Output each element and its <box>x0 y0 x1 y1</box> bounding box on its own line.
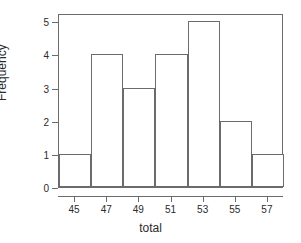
x-axis-tick <box>106 196 107 202</box>
bar-series <box>59 15 282 187</box>
y-axis-tick-label: 3 <box>43 83 49 94</box>
x-axis-tick-label: 45 <box>69 204 80 215</box>
x-axis-tick-label: 47 <box>101 204 112 215</box>
histogram-figure: Frequency 012345 total 45474951535557 <box>0 0 301 243</box>
x-axis-tick <box>203 196 204 202</box>
x-axis-tick <box>267 196 268 202</box>
x-axis-tick-label: 55 <box>229 204 240 215</box>
x-axis-title: total <box>0 221 301 235</box>
y-axis-tick-label: 4 <box>43 50 49 61</box>
histogram-bar <box>252 154 284 187</box>
histogram-bar <box>220 121 252 187</box>
histogram-bar <box>91 54 123 187</box>
y-axis-title: Frequency <box>0 44 9 101</box>
x-axis-tick-label: 57 <box>261 204 272 215</box>
x-axis-tick-label: 49 <box>133 204 144 215</box>
plot-area <box>58 14 283 188</box>
y-axis-tick-label: 0 <box>43 183 49 194</box>
x-axis-tick <box>74 196 75 202</box>
x-axis-tick <box>235 196 236 202</box>
histogram-bar <box>155 54 187 187</box>
x-axis-tick <box>138 196 139 202</box>
y-axis-tick-label: 2 <box>43 116 49 127</box>
x-axis-tick-label: 53 <box>197 204 208 215</box>
x-axis-tick-label: 51 <box>165 204 176 215</box>
y-axis-tick-label: 5 <box>43 17 49 28</box>
histogram-bar <box>188 21 220 187</box>
y-axis-tick <box>52 188 58 189</box>
x-axis-tick <box>171 196 172 202</box>
y-axis-tick-label: 1 <box>43 149 49 160</box>
histogram-bar <box>59 154 91 187</box>
histogram-bar <box>123 88 155 187</box>
